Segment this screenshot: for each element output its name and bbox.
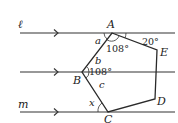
var-x: x bbox=[89, 97, 95, 108]
label-point-B: B bbox=[72, 74, 81, 87]
label-point-A: A bbox=[106, 18, 115, 31]
pentagon-parallel-lines-diagram: ℓ m A B C D E 108° 108° 20° a b c x bbox=[0, 0, 178, 123]
label-point-C: C bbox=[104, 113, 113, 123]
var-a: a bbox=[95, 35, 101, 46]
label-line-m: m bbox=[18, 98, 28, 111]
label-point-E: E bbox=[159, 46, 168, 59]
angle-B-value: 108° bbox=[89, 66, 112, 77]
angle-A-value: 108° bbox=[106, 43, 129, 54]
angle-20-value: 20° bbox=[142, 36, 159, 47]
angle-arc-x bbox=[98, 103, 102, 112]
label-point-D: D bbox=[156, 95, 166, 108]
label-line-l: ℓ bbox=[18, 18, 23, 31]
var-c: c bbox=[99, 79, 105, 90]
angle-arc-20 bbox=[125, 33, 126, 38]
angle-arc-a bbox=[104, 33, 107, 39]
var-b: b bbox=[95, 55, 101, 66]
